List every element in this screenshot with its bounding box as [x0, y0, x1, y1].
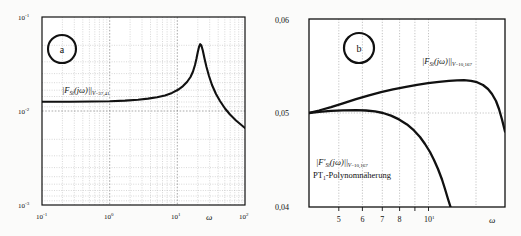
x-tick-a-0: 10-1: [36, 212, 48, 221]
x-ticks-b: 5 6 7 8 101 ω: [337, 215, 496, 225]
x-axis-label-a: ω: [206, 212, 212, 222]
x-tick-b-2: 7: [380, 215, 384, 224]
panel-b: b |FSt(jω)||V=10,167 |F′St(jω)||V=10,167…: [261, 0, 521, 236]
panel-letter-a: a: [60, 44, 65, 55]
curve-label-a-arg: (jω)|: [74, 85, 90, 95]
curve-label-b-upper-arg: (jω)|: [434, 56, 450, 66]
x-tick-a-1: 100: [104, 212, 114, 221]
x-axis-label-b: ω: [489, 215, 495, 225]
panel-letter-b: b: [357, 43, 362, 54]
figure-container: a |FSt(jω)||V=37,41 10-1 10-2 10-3 10-1 …: [0, 0, 521, 236]
y-tick-b-0: 0,06: [275, 16, 289, 25]
y-tick-a-2: 10-3: [18, 201, 30, 210]
x-tick-a-3: 102: [239, 212, 249, 221]
curve-label-b-lower-caption: PT1-Polynomnäherung: [313, 170, 392, 181]
panel-b-svg: b |FSt(jω)||V=10,167 |F′St(jω)||V=10,167…: [261, 0, 521, 236]
x-tick-b-4: 101: [424, 215, 435, 224]
x-tick-b-1: 6: [360, 215, 364, 224]
panel-a-svg: a |FSt(jω)||V=37,41 10-1 10-2 10-3 10-1 …: [0, 0, 261, 236]
y-tick-b-1: 0,05: [275, 109, 289, 118]
curve-label-b-lower-arg: (jω)|: [330, 157, 346, 167]
caption-pt-rest: -Polynomnäherung: [326, 170, 392, 180]
y-ticks-b: 0,06 0,05 0,04: [275, 16, 289, 212]
y-ticks-a: 10-1 10-2 10-3: [18, 13, 30, 210]
y-tick-b-2: 0,04: [275, 203, 289, 212]
panel-a: a |FSt(jω)||V=37,41 10-1 10-2 10-3 10-1 …: [0, 0, 261, 236]
y-tick-a-1: 10-2: [18, 107, 30, 116]
x-tick-b-3: 8: [398, 215, 402, 224]
x-tick-a-2: 101: [171, 212, 181, 221]
x-ticks-a: 10-1 100 101 102 ω: [36, 212, 249, 222]
y-tick-a-0: 10-1: [18, 13, 30, 22]
x-tick-b-0: 5: [337, 215, 341, 224]
